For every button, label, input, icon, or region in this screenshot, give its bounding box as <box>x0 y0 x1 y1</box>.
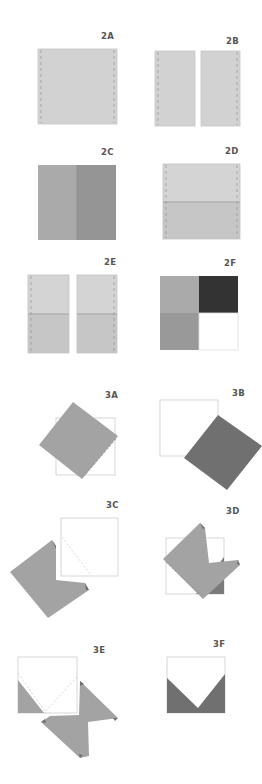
step-2d-figure <box>163 164 240 239</box>
step-label-3a: 3A <box>105 390 118 400</box>
step-3b-figure <box>160 400 262 490</box>
step-label-2f: 2F <box>224 258 236 268</box>
step-3a-figure <box>39 402 118 479</box>
step-label-3d: 3D <box>226 506 240 516</box>
step-2a-figure <box>38 49 117 124</box>
step-label-3c: 3C <box>106 500 119 510</box>
step-label-2c: 2C <box>101 147 114 157</box>
step-3f-figure <box>167 657 225 713</box>
step-2b-figure <box>155 51 240 126</box>
step-label-3e: 3E <box>93 645 105 655</box>
step-label-3f: 3F <box>213 639 225 649</box>
step-label-2a: 2A <box>101 31 114 41</box>
step-2f-figure <box>160 276 238 350</box>
step-3c-figure <box>10 518 118 618</box>
step-label-2b: 2B <box>226 36 239 46</box>
step-2c-figure <box>38 165 116 240</box>
step-label-2d: 2D <box>225 146 239 156</box>
step-label-3b: 3B <box>232 388 245 398</box>
step-label-2e: 2E <box>104 257 116 267</box>
step-2e-figure <box>28 275 117 353</box>
step-3d-figure <box>163 523 240 599</box>
step-3e-figure <box>18 657 118 758</box>
